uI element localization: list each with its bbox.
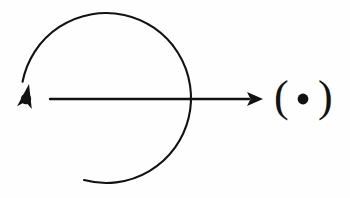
translation-arrow-group (50, 92, 263, 106)
left-parenthesis-glyph: ( (274, 75, 289, 119)
figure-canvas: ( ) (0, 0, 350, 198)
diagram-svg (0, 0, 350, 198)
right-parenthesis-glyph: ) (318, 75, 333, 119)
source-point-dot (21, 94, 31, 104)
target-point-dot (298, 94, 309, 105)
